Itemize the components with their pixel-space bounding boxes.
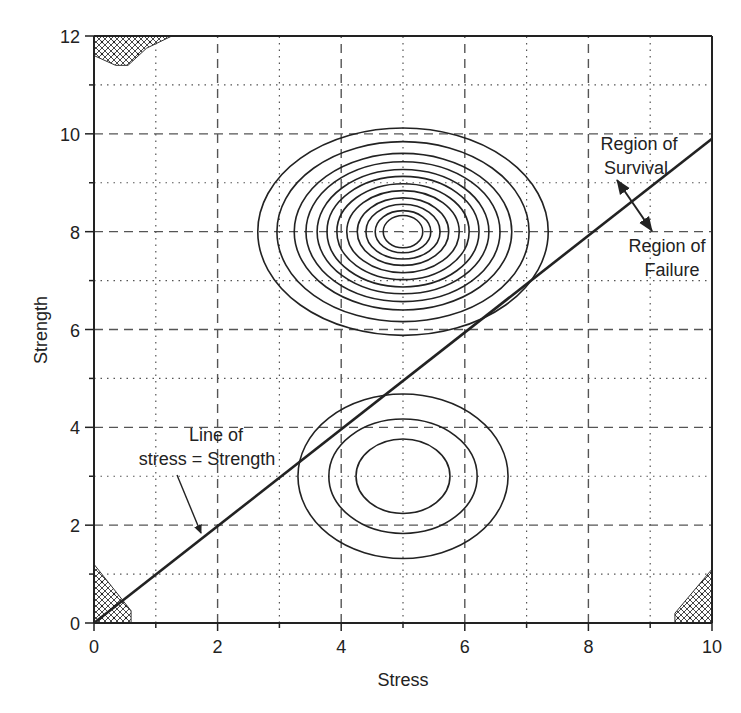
x-tick-label: 8	[583, 637, 593, 657]
hatched-region-top-left	[94, 36, 172, 65]
failure-label-line2: Failure	[644, 260, 699, 280]
y-tick-label: 4	[70, 418, 80, 438]
contour-ellipse	[329, 419, 477, 533]
x-tick-label: 6	[460, 637, 470, 657]
y-axis-title: Strength	[31, 296, 51, 364]
y-tick-label: 0	[70, 614, 80, 634]
line-label-line1: Line of	[189, 425, 244, 445]
hatched-region-bottom-left	[94, 564, 131, 623]
survival-label-line2: Survival	[604, 158, 668, 178]
y-tick-label: 2	[70, 516, 80, 536]
x-tick-label: 0	[89, 637, 99, 657]
failure-label-line1: Region of	[628, 236, 706, 256]
x-tick-label: 2	[213, 637, 223, 657]
y-tick-label: 8	[70, 223, 80, 243]
pointer-arrow-icon	[177, 475, 201, 533]
x-tick-label: 4	[336, 637, 346, 657]
y-tick-label: 12	[60, 27, 80, 47]
survival-label-line1: Region of	[600, 134, 678, 154]
y-tick-label: 6	[70, 321, 80, 341]
x-axis-title: Stress	[377, 670, 428, 690]
y-tick-label: 10	[60, 125, 80, 145]
x-tick-label: 10	[702, 637, 722, 657]
axis-ticks: 0246810024681012	[60, 27, 722, 657]
grid-lines	[94, 36, 712, 623]
annotation-survival: Region of Survival	[600, 134, 678, 178]
annotation-line-label: Line of stress = Strength	[139, 425, 276, 469]
contour-ellipse	[356, 439, 450, 513]
hatched-region-bottom-right	[675, 569, 712, 623]
line-label-line2: stress = Strength	[139, 449, 276, 469]
annotation-failure: Region of Failure	[628, 236, 706, 280]
stress-strength-chart: 0246810024681012 Stress Strength Region …	[0, 0, 741, 713]
double-arrow-icon	[617, 180, 652, 231]
